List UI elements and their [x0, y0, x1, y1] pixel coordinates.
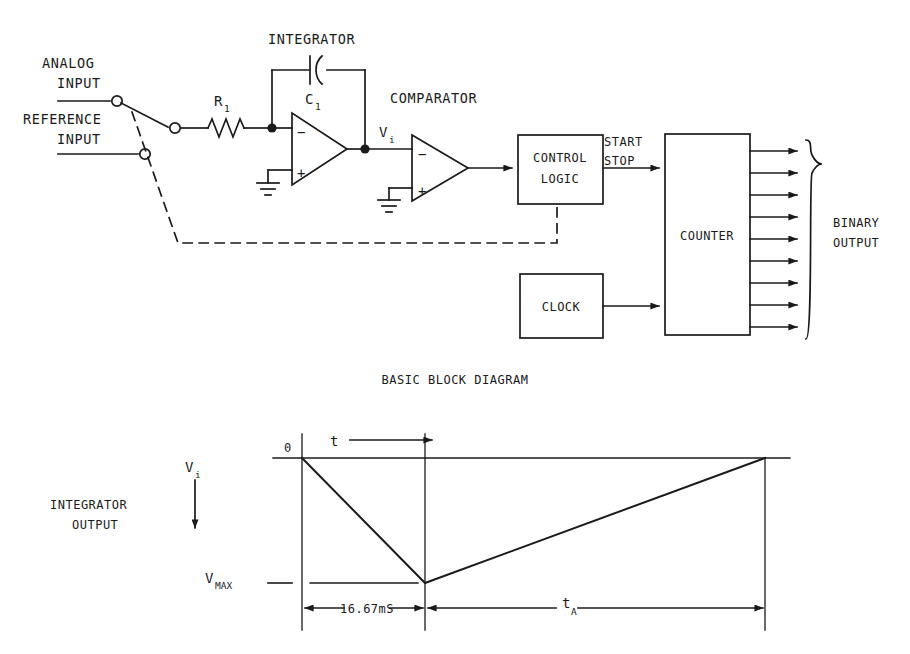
waveform-title-line2: OUTPUT: [72, 518, 118, 532]
integrator-ground: [257, 170, 292, 195]
figure-caption: BASIC BLOCK DIAGRAM: [382, 373, 529, 387]
ramp-up-duration-label: t: [562, 595, 570, 611]
resistor-r1: [208, 119, 272, 137]
vi-axis-subscript: i: [195, 469, 201, 480]
time-axis-label: t: [330, 433, 338, 449]
binary-output-label-line1: BINARY: [833, 216, 880, 230]
origin-label: 0: [284, 441, 292, 455]
binary-output-brace: [806, 140, 822, 339]
clock-label: CLOCK: [542, 300, 581, 314]
capacitor-c1-symbol: [310, 56, 322, 84]
comparator-ground: [378, 188, 412, 212]
integrator-output-trace: [302, 458, 765, 583]
control-logic-label-line2: LOGIC: [541, 172, 580, 186]
start-signal-label: START: [604, 135, 643, 149]
control-logic-block[interactable]: [518, 135, 603, 204]
analog-input-terminal: [58, 96, 122, 106]
integrator-noninverting-input-sign: +: [297, 165, 305, 181]
resistor-label: R: [214, 93, 223, 109]
comparator-noninverting-input-sign: +: [418, 183, 426, 199]
integrator-inverting-input-sign: −: [297, 124, 305, 140]
reference-input-terminal: [58, 149, 150, 159]
resistor-subscript: 1: [224, 103, 230, 114]
binary-output-arrows: [750, 151, 797, 327]
analog-input-label-line1: ANALOG: [42, 55, 94, 71]
vi-axis-label: V: [185, 459, 194, 475]
analog-input-label-line2: INPUT: [57, 75, 101, 91]
stop-signal-label: STOP: [604, 154, 635, 168]
comparator-inverting-input-sign: −: [418, 146, 426, 162]
integrator-title: INTEGRATOR: [268, 31, 356, 47]
comparator-title: COMPARATOR: [390, 90, 478, 106]
reference-input-label-line2: INPUT: [57, 131, 101, 147]
capacitor-subscript: 1: [315, 101, 321, 112]
vi-node-label: V: [379, 124, 388, 140]
counter-label: COUNTER: [680, 229, 734, 243]
binary-output-label-line2: OUTPUT: [833, 236, 879, 250]
capacitor-label: C: [305, 91, 313, 107]
figure-canvas: ANALOG INPUT REFERENCE INPUT R 1 INTEGRA…: [0, 0, 910, 654]
reference-input-label-line1: REFERENCE: [23, 111, 102, 127]
control-logic-label-line1: CONTROL: [533, 151, 587, 165]
ramp-down-duration-label: 16.67mS: [340, 602, 394, 616]
ramp-up-duration-subscript: A: [571, 606, 577, 617]
waveform-title-line1: INTEGRATOR: [50, 498, 128, 512]
waveform-axes: [273, 434, 790, 630]
switch-control-dashed-link: [132, 112, 557, 243]
vi-node-subscript: i: [389, 134, 395, 145]
vmax-subscript: MAX: [215, 580, 232, 591]
vmax-label: V: [205, 570, 214, 586]
input-selector-switch[interactable]: [121, 103, 180, 133]
